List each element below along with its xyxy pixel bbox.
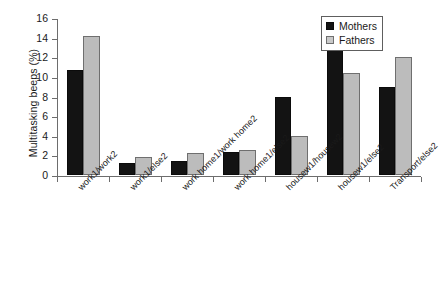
x-tick: [161, 177, 162, 182]
x-tick: [109, 177, 110, 182]
legend-item-mothers: Mothers: [326, 19, 377, 33]
legend-swatch-fathers: [326, 36, 334, 44]
y-tick-label: 0: [22, 169, 48, 181]
x-tick: [57, 177, 58, 182]
y-tick-label: 4: [22, 130, 48, 142]
y-tick: 10: [52, 78, 57, 79]
y-tick: 6: [52, 117, 57, 118]
bar-fathers-5: [343, 73, 360, 175]
bar-fathers-6: [395, 57, 412, 175]
y-tick: 16: [52, 19, 57, 20]
y-tick: 14: [52, 39, 57, 40]
y-tick: 2: [52, 156, 57, 157]
y-axis-line: [57, 19, 58, 177]
y-tick: 12: [52, 58, 57, 59]
x-tick: [421, 177, 422, 182]
legend-label-fathers: Fathers: [339, 34, 375, 46]
x-tick: [369, 177, 370, 182]
y-tick-label: 12: [22, 51, 48, 63]
y-tick-label: 16: [22, 12, 48, 24]
y-tick-label: 8: [22, 91, 48, 103]
legend: Mothers Fathers: [321, 16, 383, 51]
bar-mothers-1: [119, 163, 136, 175]
bar-mothers-6: [379, 87, 396, 175]
y-tick-label: 2: [22, 149, 48, 161]
bar-mothers-2: [171, 161, 188, 175]
bar-mothers-0: [67, 70, 84, 175]
bar-mothers-3: [223, 152, 240, 175]
x-tick: [317, 177, 318, 182]
x-tick: [265, 177, 266, 182]
legend-swatch-mothers: [326, 22, 334, 30]
y-tick: 4: [52, 137, 57, 138]
y-tick-label: 14: [22, 32, 48, 44]
legend-label-mothers: Mothers: [339, 20, 377, 32]
y-tick-label: 10: [22, 71, 48, 83]
y-tick: 8: [52, 98, 57, 99]
legend-item-fathers: Fathers: [326, 33, 377, 47]
bar-fathers-0: [83, 36, 100, 175]
x-tick: [213, 177, 214, 182]
y-tick-label: 6: [22, 110, 48, 122]
